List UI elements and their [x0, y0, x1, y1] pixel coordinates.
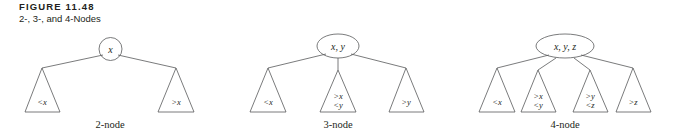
figure-page: FIGURE 11.48 2-, 3-, and 4-Nodes x <x >x…	[0, 0, 676, 135]
node-label-two-node-root: x	[107, 44, 113, 55]
edge-two-node-left	[42, 55, 103, 68]
diagram-two-node: x <x >x 2-node	[25, 38, 194, 131]
subtree-label-three-node-2-line1: >y	[401, 97, 411, 107]
edge-two-node-right	[118, 55, 176, 68]
edge-four-node-2	[538, 58, 556, 70]
subtree-label-four-node-2-line2: <z	[585, 100, 595, 110]
subtree-label-four-node-1-line2: <y	[533, 100, 543, 110]
caption-three-node: 3-node	[323, 119, 352, 130]
edge-three-node-right	[351, 54, 406, 68]
subtree-label-three-node-0-line1: <x	[263, 97, 273, 107]
node-label-four-node-root: x, y, z	[553, 41, 576, 52]
tree-diagrams: x <x >x 2-node x, y <x >x <y >y 3-node	[0, 0, 676, 135]
subtree-label-two-node-0-line1: <x	[37, 97, 47, 107]
edge-three-node-left	[268, 54, 326, 68]
subtree-label-three-node-1-line2: <y	[333, 100, 343, 110]
diagram-three-node: x, y <x >x <y >y 3-node	[250, 34, 424, 130]
subtree-label-four-node-0-line1: <x	[492, 97, 502, 107]
diagram-four-node: x, y, z <x >x <y >y <z >z 4-node	[479, 34, 651, 130]
subtree-label-four-node-3-line1: >z	[628, 97, 638, 107]
subtree-label-two-node-1-line1: >x	[171, 97, 181, 107]
caption-four-node: 4-node	[550, 119, 579, 130]
edge-four-node-1	[497, 55, 549, 68]
edge-four-node-4	[581, 55, 633, 68]
caption-two-node: 2-node	[95, 119, 124, 130]
edge-four-node-3	[574, 58, 590, 70]
node-label-three-node-root: x, y	[330, 41, 345, 52]
